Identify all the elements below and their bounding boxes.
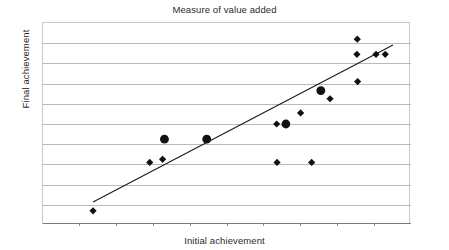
data-point-circle: [316, 86, 325, 95]
y-axis-label-wrap: Final achievement: [19, 0, 33, 142]
data-point-circle: [160, 135, 169, 144]
scatter-chart: Measure of value added Initial achieveme…: [0, 0, 449, 250]
trendline: [93, 45, 393, 202]
plot-canvas: [43, 23, 411, 225]
data-point-diamond: [353, 51, 360, 58]
data-point-diamond: [354, 36, 361, 43]
data-point-diamond: [372, 51, 379, 58]
data-point-diamond: [159, 156, 166, 163]
x-axis-label: Initial achievement: [0, 235, 449, 247]
data-point-diamond: [326, 95, 333, 102]
data-point-diamond: [382, 51, 389, 58]
plot-area: [42, 22, 410, 224]
y-axis-label: Final achievement: [19, 0, 33, 142]
data-point-circle: [202, 135, 211, 144]
data-point-diamond: [273, 120, 280, 127]
x-axis-canvas: [42, 223, 411, 231]
x-axis: [42, 223, 411, 231]
gridlines: [43, 44, 411, 206]
data-point-diamond: [89, 207, 96, 214]
chart-title: Measure of value added: [0, 4, 449, 16]
data-point-diamond: [297, 109, 304, 116]
data-point-circle: [281, 120, 290, 129]
trendline-segment: [93, 45, 393, 202]
